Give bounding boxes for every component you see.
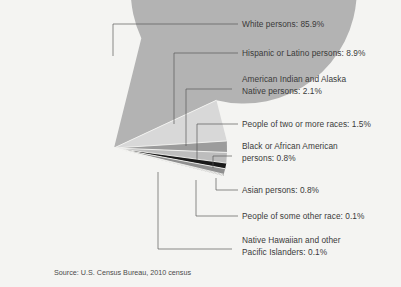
label-american-indian-line2: Native persons: 2.1% [242,86,322,96]
label-hispanic-latino: Hispanic or Latino persons: 8.9% [242,48,366,58]
label-some-other-race: People of some other race: 0.1% [242,211,365,221]
label-asian-persons: Asian persons: 0.8% [242,185,320,195]
label-black-african-american-line2: persons: 0.8% [242,153,296,163]
pie-chart-svg: White persons: 85.9% Hispanic or Latino … [0,0,401,287]
label-white-persons: White persons: 85.9% [242,19,325,29]
label-american-indian-line1: American Indian and Alaska [242,74,346,84]
pie-chart-figure: White persons: 85.9% Hispanic or Latino … [0,0,401,287]
source-note: Source: U.S. Census Bureau, 2010 census [54,268,191,277]
label-two-or-more-races: People of two or more races: 1.5% [242,119,372,129]
label-native-hawaiian-line1: Native Hawaiian and other [242,235,341,245]
label-native-hawaiian-line2: Pacific Islanders: 0.1% [242,247,328,257]
label-black-african-american-line1: Black or African American [242,141,338,151]
